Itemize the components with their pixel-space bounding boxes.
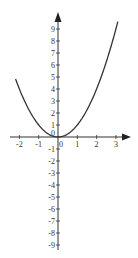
- y-tick-label: 6: [51, 61, 55, 70]
- y-tick-label: 3: [51, 97, 55, 106]
- x-tick-label: -2: [16, 140, 23, 149]
- axes: [10, 12, 131, 250]
- y-tick-label: 7: [51, 49, 55, 58]
- chart: -2-101239876543210-1-2-3-4-5-6-7-8-9: [0, 0, 138, 258]
- y-tick-label: 9: [51, 25, 55, 34]
- y-tick-label: 8: [51, 37, 55, 46]
- x-tick-label: 3: [114, 140, 118, 149]
- y-axis-arrow-icon: [55, 12, 62, 22]
- y-tick-label: -3: [48, 169, 55, 178]
- y-tick-label: -7: [48, 217, 55, 226]
- x-tick-label: 2: [95, 140, 99, 149]
- y-tick-label: -2: [48, 157, 55, 166]
- y-tick-label: 2: [51, 109, 55, 118]
- y-tick-label: -4: [48, 181, 55, 190]
- x-tick-label: 1: [75, 140, 79, 149]
- parabola-curve: [16, 22, 118, 137]
- y-tick-label: -9: [48, 241, 55, 250]
- x-axis-arrow-icon: [122, 134, 131, 141]
- parabola-plot: -2-101239876543210-1-2-3-4-5-6-7-8-9: [0, 0, 138, 258]
- x-tick-label: 0: [59, 140, 63, 149]
- y-tick-label: -8: [48, 229, 55, 238]
- y-tick-label: -1: [48, 145, 55, 154]
- y-tick-label: -6: [48, 205, 55, 214]
- y-tick-label: -5: [48, 193, 55, 202]
- x-tick-label: -1: [35, 140, 42, 149]
- y-tick-label: 5: [51, 73, 55, 82]
- y-tick-label: 4: [51, 85, 55, 94]
